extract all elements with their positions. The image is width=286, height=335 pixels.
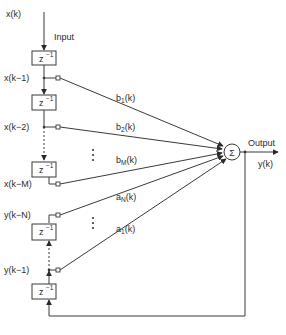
delay-block-5: z −1 [32, 284, 56, 299]
output-signal-label: y(k) [258, 159, 273, 169]
weight-line-an [60, 156, 223, 215]
svg-text:x(k−2): x(k−2) [4, 122, 29, 132]
svg-text:Σ: Σ [229, 148, 235, 158]
ellipsis-feedback [92, 217, 94, 229]
tap-x-k-1: x(k−1) [4, 73, 60, 83]
svg-text:aN(k): aN(k) [116, 192, 136, 203]
delay-block-1: z −1 [32, 51, 56, 65]
ellipsis-feedforward [92, 149, 94, 161]
tap-x-k-2: x(k−2) [4, 122, 60, 132]
weight-label-an: aN(k) [116, 192, 136, 203]
svg-text:z: z [39, 227, 44, 237]
svg-text:−1: −1 [46, 51, 54, 58]
svg-text:b1(k): b1(k) [116, 93, 135, 104]
feedback-path [49, 152, 245, 316]
delay-block-2: z −1 [32, 95, 56, 110]
weight-label-b2: b2(k) [116, 122, 135, 133]
input-signal-label: x(k) [6, 9, 21, 19]
tap-y-k-1: y(k−1) [4, 265, 60, 275]
svg-text:−1: −1 [46, 95, 54, 102]
svg-text:a1(k): a1(k) [116, 224, 135, 235]
weight-label-bm: bM(k) [116, 155, 137, 166]
svg-text:−1: −1 [46, 224, 54, 231]
delay-block-3: z −1 [32, 162, 56, 177]
svg-text:y(k−1): y(k−1) [4, 265, 29, 275]
tap-y-k-n: y(k−N) [4, 210, 60, 223]
weight-line-b2 [60, 127, 222, 149]
weight-line-bm [60, 153, 222, 184]
iir-filter-diagram: x(k) Input z −1 x(k−1) z −1 x(k−2) z −1 … [0, 0, 286, 335]
weight-line-a1 [60, 159, 226, 270]
svg-text:z: z [39, 287, 44, 297]
svg-text:x(k−1): x(k−1) [4, 73, 29, 83]
weight-line-b1 [60, 78, 223, 146]
svg-text:bM(k): bM(k) [116, 155, 137, 166]
svg-text:b2(k): b2(k) [116, 122, 135, 133]
svg-text:z: z [39, 54, 44, 64]
tap-x-k-m: x(k−M) [4, 177, 60, 189]
svg-text:z: z [39, 165, 44, 175]
weight-label-b1: b1(k) [116, 93, 135, 104]
output-label: Output [248, 138, 276, 148]
svg-text:z: z [39, 98, 44, 108]
svg-text:−1: −1 [46, 162, 54, 169]
delay-block-4: z −1 [32, 224, 56, 240]
weight-label-a1: a1(k) [116, 224, 135, 235]
summer-node: Σ [224, 144, 240, 160]
svg-text:x(k−M): x(k−M) [4, 179, 32, 189]
input-label: Input [54, 32, 75, 42]
svg-text:y(k−N): y(k−N) [4, 210, 31, 220]
svg-text:−1: −1 [46, 284, 54, 291]
